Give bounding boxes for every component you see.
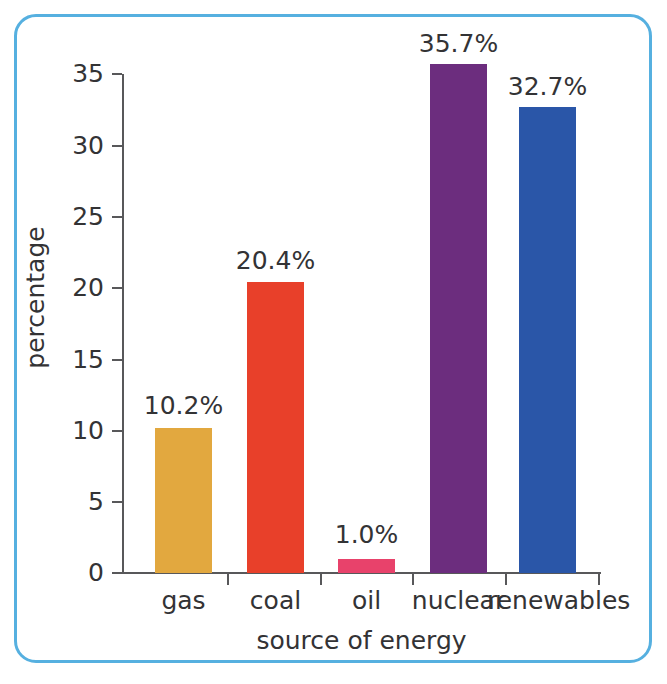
chart-figure: 0 5 10 15 20 25 30 35 <box>0 0 667 684</box>
y-tick-mark-5 <box>112 501 122 503</box>
x-tick-mark-5 <box>598 574 600 585</box>
bar-renewables[interactable] <box>519 107 576 573</box>
y-tick-mark-10 <box>112 430 122 432</box>
x-tick-mark-1 <box>227 574 229 585</box>
x-tick-mark-4 <box>505 574 507 585</box>
y-tick-label-0: 0 <box>44 560 104 585</box>
plot-area: 0 5 10 15 20 25 30 35 <box>0 0 667 684</box>
x-category-label-renewables: renewables <box>487 588 608 613</box>
x-tick-mark-2 <box>320 574 322 585</box>
bar-value-label-renewables: 32.7% <box>487 74 608 99</box>
bar-value-label-oil: 1.0% <box>306 522 427 547</box>
bar-gas[interactable] <box>155 428 212 573</box>
y-tick-label-30: 30 <box>44 133 104 158</box>
bar-value-label-coal: 20.4% <box>215 248 336 273</box>
y-tick-label-5: 5 <box>44 489 104 514</box>
y-tick-label-10: 10 <box>44 418 104 443</box>
y-tick-mark-30 <box>112 145 122 147</box>
bar-value-label-nuclear: 35.7% <box>398 31 519 56</box>
x-axis-title: source of energy <box>122 628 601 653</box>
bar-nuclear[interactable] <box>430 64 487 573</box>
y-tick-mark-35 <box>112 73 122 75</box>
y-tick-mark-0 <box>112 572 122 574</box>
y-tick-mark-20 <box>112 287 122 289</box>
y-tick-mark-15 <box>112 359 122 361</box>
bar-value-label-gas: 10.2% <box>123 393 244 418</box>
y-tick-mark-25 <box>112 216 122 218</box>
y-axis-line <box>122 74 124 574</box>
y-axis-title: percentage <box>23 218 48 378</box>
y-tick-label-20: 20 <box>44 275 104 300</box>
bar-oil[interactable] <box>338 559 395 573</box>
x-tick-mark-3 <box>412 574 414 585</box>
y-tick-label-15: 15 <box>44 347 104 372</box>
bar-coal[interactable] <box>247 282 304 573</box>
y-tick-label-25: 25 <box>44 204 104 229</box>
y-tick-label-35: 35 <box>44 61 104 86</box>
